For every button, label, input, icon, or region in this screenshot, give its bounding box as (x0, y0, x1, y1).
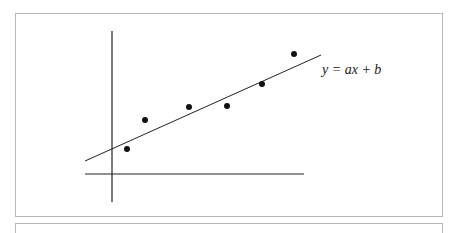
data-point (224, 103, 230, 109)
equation-label: y = ax + b (322, 62, 381, 78)
scatter-plot (0, 0, 458, 233)
regression-line (85, 55, 321, 161)
data-point (142, 117, 148, 123)
data-point (186, 104, 192, 110)
data-points (124, 51, 297, 152)
data-point (259, 81, 265, 87)
data-point (124, 146, 130, 152)
data-point (291, 51, 297, 57)
